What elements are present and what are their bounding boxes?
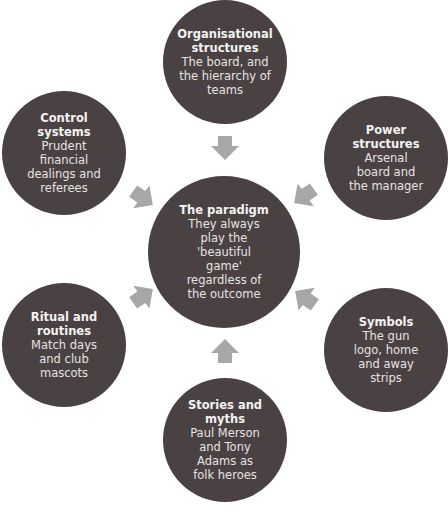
center-title: The paradigm <box>179 203 269 217</box>
node-description: Prudent financial dealings and referees <box>27 139 101 195</box>
arrow-symbols-to-center <box>287 280 323 317</box>
node-title: Control systems <box>37 111 90 139</box>
node-organisational-structures: Organisational structures The board, and… <box>163 0 287 124</box>
node-ritual-and-routines: Ritual and routines Match days and club … <box>2 283 126 407</box>
node-title: Ritual and routines <box>31 310 97 338</box>
node-title: Power structures <box>352 123 419 151</box>
node-stories-and-myths: Stories and myths Paul Merson and Tony A… <box>163 378 287 502</box>
node-description: Paul Merson and Tony Adams as folk heroe… <box>190 426 260 482</box>
arrow-control-to-center <box>125 180 161 217</box>
node-symbols: Symbols The gun logo, home and away stri… <box>324 288 448 412</box>
arrow-stories-to-center <box>211 339 239 363</box>
node-title: Stories and myths <box>188 398 262 426</box>
node-title: Organisational structures <box>177 27 272 55</box>
center-description: They always play the 'beautiful game' re… <box>187 217 262 301</box>
cultural-web-diagram: Organisational structures The board, and… <box>0 0 448 512</box>
node-control-systems: Control systems Prudent financial dealin… <box>2 91 126 215</box>
node-description: Match days and club mascots <box>31 338 97 380</box>
node-description: Arsenal board and the manager <box>349 151 423 193</box>
node-paradigm-center: The paradigm They always play the 'beaut… <box>148 176 300 328</box>
arrow-power-to-center <box>286 178 322 215</box>
node-title: Symbols <box>359 315 414 329</box>
node-power-structures: Power structures Arsenal board and the m… <box>324 96 448 220</box>
node-description: The gun logo, home and away strips <box>354 329 418 385</box>
node-description: The board, and the hierarchy of teams <box>179 55 271 97</box>
arrow-org-to-center <box>211 136 239 160</box>
